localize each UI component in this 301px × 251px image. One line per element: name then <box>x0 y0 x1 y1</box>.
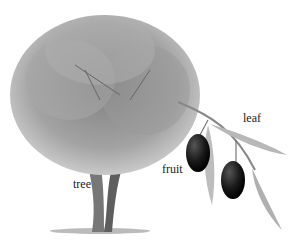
olive-illustration <box>0 0 301 251</box>
olive-fruit-2 <box>221 161 245 199</box>
tree-canopy <box>10 15 200 175</box>
leaf-shape <box>210 124 287 155</box>
leaf-shape <box>252 168 282 230</box>
label-fruit: fruit <box>162 163 183 175</box>
label-leaf: leaf <box>243 112 261 124</box>
olive-fruit-1 <box>186 134 210 172</box>
label-tree: tree <box>73 178 91 190</box>
olive-diagram: tree fruit leaf <box>0 0 301 251</box>
